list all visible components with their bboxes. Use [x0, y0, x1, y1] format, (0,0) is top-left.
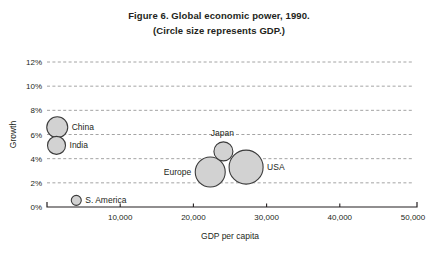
y-tick-label-8: 8% — [30, 106, 42, 115]
bubble-india — [48, 136, 66, 154]
bubble-label-japan: Japan — [211, 128, 234, 138]
y-tick-label-10: 10% — [26, 82, 42, 91]
x-tick-label-10000: 10,000 — [108, 213, 133, 222]
y-tick-label-2: 2% — [30, 179, 42, 188]
bubble-japan — [214, 142, 233, 161]
y-axis-tick-labels: 0%2%4%6%8%10%12% — [26, 58, 42, 212]
x-tick-label-40000: 40,000 — [328, 213, 353, 222]
x-axis-title: GDP per capita — [201, 231, 259, 241]
y-tick-label-6: 6% — [30, 131, 42, 140]
bubble-europe — [195, 157, 225, 187]
x-tick-label-20000: 20,000 — [181, 213, 206, 222]
y-tick-label-0: 0% — [30, 203, 42, 212]
bubble-chart-plot: 0%2%4%6%8%10%12% 10,00020,00030,00040,00… — [0, 0, 438, 255]
chart-figure: Figure 6. Global economic power, 1990. (… — [0, 0, 438, 255]
x-tick-label-30000: 30,000 — [254, 213, 279, 222]
y-axis-title: Growth — [8, 121, 18, 149]
y-tick-label-4: 4% — [30, 155, 42, 164]
bubble-label-s-america: S. America — [85, 195, 126, 205]
bubble-label-usa: USA — [267, 162, 285, 172]
bubble-usa — [229, 150, 263, 184]
bubble-label-china: China — [72, 122, 94, 132]
bubble-label-europe: Europe — [164, 167, 192, 177]
x-tick-label-50000: 50,000 — [401, 213, 426, 222]
y-tick-label-12: 12% — [26, 58, 42, 67]
bubble-label-india: India — [70, 140, 89, 150]
bubble-s-america — [71, 195, 81, 205]
x-axis-tick-labels: 10,00020,00030,00040,00050,000 — [108, 213, 426, 222]
bubble-china — [47, 117, 68, 138]
